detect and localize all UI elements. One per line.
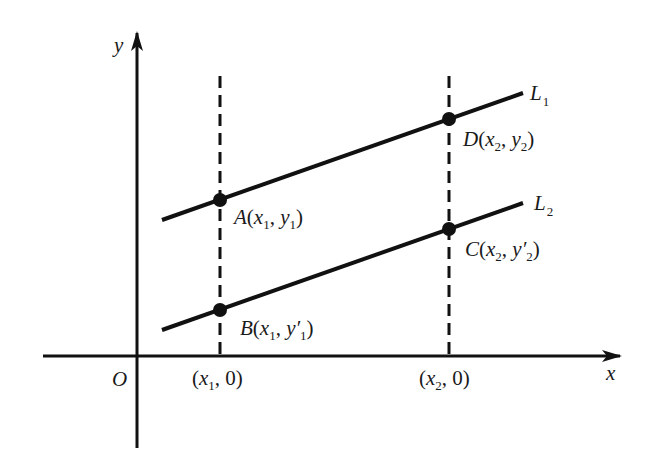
origin-label: O bbox=[112, 367, 127, 391]
point-b bbox=[213, 303, 227, 317]
coordinate-diagram: y x O L1 L2 A(x1, y1) D(x2, y2) B(x1, y′… bbox=[0, 0, 655, 470]
point-a bbox=[213, 193, 227, 207]
label-l2: L2 bbox=[533, 191, 553, 219]
label-l1: L1 bbox=[529, 81, 549, 109]
label-point-d: D(x2, y2) bbox=[462, 127, 534, 154]
label-point-b: B(x1, y′1) bbox=[240, 316, 314, 343]
point-c bbox=[442, 222, 456, 236]
y-axis-label: y bbox=[112, 33, 124, 57]
x-axis-label: x bbox=[605, 361, 616, 385]
point-d bbox=[442, 112, 456, 126]
tick-label-x1: (x1, 0) bbox=[192, 366, 243, 393]
label-point-a: A(x1, y1) bbox=[232, 205, 303, 232]
tick-label-x2: (x2, 0) bbox=[419, 366, 470, 393]
label-point-c: C(x2, y′2) bbox=[465, 237, 540, 264]
